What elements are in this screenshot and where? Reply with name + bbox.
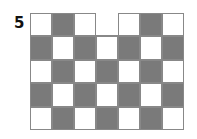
light-square bbox=[118, 13, 140, 36]
light-square bbox=[74, 107, 96, 130]
light-square bbox=[162, 60, 184, 83]
dark-square bbox=[52, 107, 74, 130]
dark-square bbox=[162, 36, 184, 59]
light-square bbox=[118, 107, 140, 130]
dark-square bbox=[118, 36, 140, 59]
light-square bbox=[162, 107, 184, 130]
dark-square bbox=[118, 83, 140, 106]
light-square bbox=[30, 107, 52, 130]
light-square bbox=[30, 13, 52, 36]
light-square bbox=[96, 36, 118, 59]
missing-square bbox=[96, 13, 118, 36]
figure-number: 5 bbox=[14, 14, 24, 32]
dark-square bbox=[52, 13, 74, 36]
dark-square bbox=[140, 13, 162, 36]
light-square bbox=[74, 13, 96, 36]
light-square bbox=[118, 60, 140, 83]
dark-square bbox=[96, 107, 118, 130]
dark-square bbox=[30, 83, 52, 106]
checkerboard-grid bbox=[30, 13, 184, 130]
dark-square bbox=[96, 60, 118, 83]
light-square bbox=[52, 36, 74, 59]
dark-square bbox=[52, 60, 74, 83]
light-square bbox=[96, 83, 118, 106]
light-square bbox=[30, 60, 52, 83]
dark-square bbox=[140, 107, 162, 130]
light-square bbox=[140, 83, 162, 106]
dark-square bbox=[30, 36, 52, 59]
dark-square bbox=[74, 83, 96, 106]
light-square bbox=[52, 83, 74, 106]
dark-square bbox=[74, 36, 96, 59]
dark-square bbox=[140, 60, 162, 83]
light-square bbox=[162, 13, 184, 36]
light-square bbox=[74, 60, 96, 83]
light-square bbox=[140, 36, 162, 59]
dark-square bbox=[162, 83, 184, 106]
